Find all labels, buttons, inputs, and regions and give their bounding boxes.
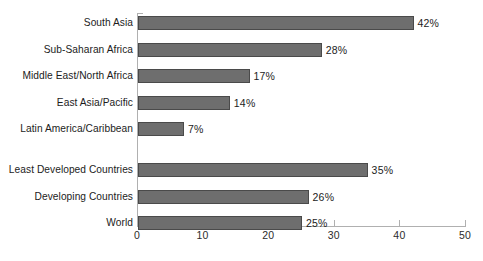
bar [138, 216, 302, 230]
category-label: Developing Countries [0, 191, 133, 202]
x-tick-label-10: 10 [183, 229, 223, 241]
bar-value-label: 28% [326, 44, 348, 56]
category-label: South Asia [0, 17, 133, 28]
bar-value-label: 14% [234, 97, 256, 109]
x-tick-label-40: 40 [379, 229, 419, 241]
bar-value-label: 35% [372, 164, 394, 176]
bar [138, 69, 250, 83]
bar [138, 122, 184, 136]
category-label: East Asia/Pacific [0, 97, 133, 108]
category-label: Sub-Saharan Africa [0, 44, 133, 55]
x-tick-30 [334, 220, 335, 226]
category-label: Least Developed Countries [0, 164, 133, 175]
x-tick-label-0: 0 [117, 229, 157, 241]
category-label: Latin America/Caribbean [0, 123, 133, 134]
bar-value-label: 42% [418, 17, 440, 29]
category-label: World [0, 217, 133, 228]
x-tick-50 [465, 220, 466, 226]
bar [138, 96, 230, 110]
plot-area: 01020304050 42%28%17%14%7%35%26%25% Sout… [0, 0, 483, 261]
category-label: Middle East/North Africa [0, 70, 133, 81]
bar-value-label: 26% [313, 191, 335, 203]
bar [138, 163, 368, 177]
bar-value-label: 7% [188, 123, 204, 135]
x-tick-40 [399, 220, 400, 226]
y-axis-top-tick [137, 13, 143, 14]
bar [138, 16, 414, 30]
bar-chart: 01020304050 42%28%17%14%7%35%26%25% Sout… [0, 0, 483, 261]
x-tick-label-50: 50 [445, 229, 483, 241]
bar [138, 43, 322, 57]
bar [138, 190, 309, 204]
x-tick-label-30: 30 [314, 229, 354, 241]
bar-value-label: 25% [306, 217, 328, 229]
x-tick-label-20: 20 [248, 229, 288, 241]
bar-value-label: 17% [254, 70, 276, 82]
